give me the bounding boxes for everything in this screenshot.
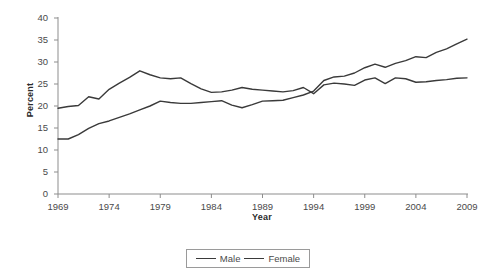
legend-item-female[interactable]: Female — [244, 253, 300, 264]
y-tick-label: 30 — [26, 56, 48, 67]
y-tick-label: 25 — [26, 78, 48, 89]
x-tick-label: 2004 — [396, 201, 436, 212]
x-tick-label: 1984 — [191, 201, 231, 212]
legend-label-male: Male — [220, 253, 241, 264]
x-tick-label: 2009 — [447, 201, 487, 212]
y-tick-label: 40 — [26, 12, 48, 23]
axis-lines — [58, 17, 468, 194]
x-axis-title: Year — [232, 212, 292, 222]
data-series-lines — [58, 39, 467, 139]
x-tick-label: 1969 — [38, 201, 78, 212]
x-tick-label: 1994 — [294, 201, 334, 212]
y-tick-label: 15 — [26, 122, 48, 133]
x-tick-label: 1974 — [89, 201, 129, 212]
y-tick-label: 20 — [26, 100, 48, 111]
axis-tick-marks — [54, 18, 467, 198]
legend-line-icon-female — [244, 258, 264, 259]
chart-legend: Male Female — [186, 249, 310, 268]
legend-label-female: Female — [268, 253, 300, 264]
x-tick-label: 1979 — [140, 201, 180, 212]
plot-area — [0, 0, 496, 277]
y-tick-label: 0 — [26, 188, 48, 199]
x-tick-label: 1989 — [243, 201, 283, 212]
y-tick-label: 5 — [26, 166, 48, 177]
line-chart-figure: Percent Year 0510152025303540 1969197419… — [0, 0, 496, 277]
y-tick-label: 35 — [26, 34, 48, 45]
x-tick-label: 1999 — [345, 201, 385, 212]
y-tick-label: 10 — [26, 144, 48, 155]
legend-line-icon-male — [196, 258, 216, 259]
legend-item-male[interactable]: Male — [196, 253, 241, 264]
